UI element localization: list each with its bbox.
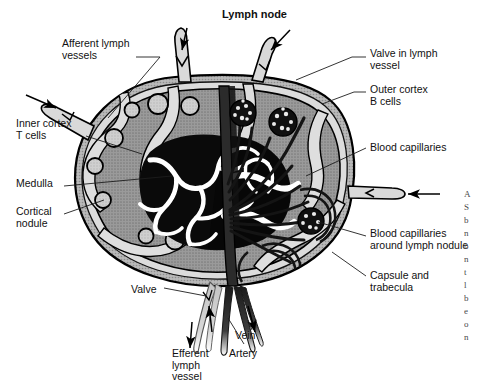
leader-line — [296, 57, 366, 80]
label-artery: Artery — [229, 348, 257, 360]
label-valve-in-lymph-vessel: Valve in lymph vessel — [370, 48, 438, 71]
figure-title: Lymph node — [222, 9, 287, 21]
leader-line — [164, 288, 206, 296]
afferent-lymph-vessel — [175, 28, 191, 82]
cortical-nodule — [125, 103, 140, 118]
cortical-nodule — [148, 94, 168, 114]
label-medulla: Medulla — [16, 178, 53, 190]
cortical-nodule — [87, 158, 103, 174]
afferent-lymph-vessel — [348, 186, 405, 199]
efferent-arrow — [190, 322, 192, 348]
leader-line — [332, 252, 366, 276]
label-blood-capillaries: Blood capillaries — [370, 142, 446, 154]
label-valve: Valve — [131, 284, 157, 296]
label-vein: Vein — [235, 330, 255, 342]
label-cortical-nodule: Cortical nodule — [16, 206, 52, 229]
blood-capillary-tuft — [269, 107, 297, 136]
label-efferent-lymph-vessel: Efferent lymph vessel — [172, 348, 209, 383]
lymph-node-body — [41, 28, 405, 355]
afferent-arrow — [26, 95, 56, 108]
label-outer-cortex-b-cells: Outer cortex B cells — [370, 84, 428, 107]
blood-capillary-tuft — [298, 208, 324, 234]
afferent-lymph-vessel — [252, 37, 276, 82]
cortical-nodule — [105, 129, 123, 147]
artery — [221, 286, 233, 355]
cortical-nodule — [139, 229, 154, 244]
label-capsule-and-trabecula: Capsule and trabecula — [370, 270, 429, 293]
label-inner-cortex-t-cells: Inner cortex T cells — [16, 118, 71, 141]
blood-capillary-tuft — [230, 99, 256, 126]
page-margin-text: ASbnbntlbeon — [464, 188, 484, 383]
label-afferent-lymph-vessels: Afferent lymph vessels — [62, 38, 130, 61]
label-blood-capillaries-around-lymph-nodule: Blood capillaries around lymph nodule — [370, 228, 468, 251]
cortical-nodule — [181, 97, 199, 115]
